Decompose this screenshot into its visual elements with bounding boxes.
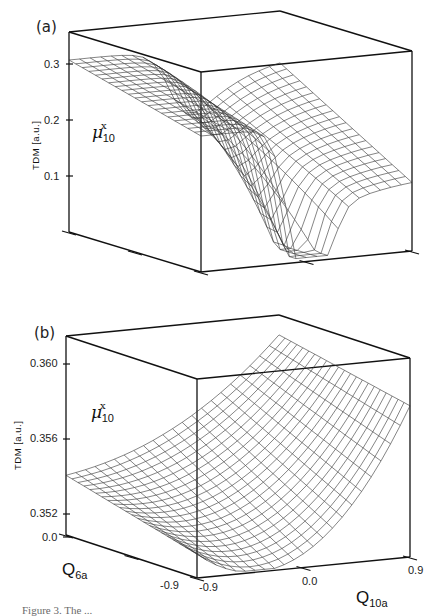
panel-b-top-edge (279, 315, 410, 358)
panel-b-tick-1: 0.356 (30, 433, 58, 444)
panel-b-tag: (b) (34, 326, 55, 341)
panel-b-surface-mesh-line (155, 383, 368, 536)
panel-a-top-edge (201, 51, 412, 72)
panel-b-surface-mesh-line (250, 366, 381, 461)
mu-superscript: x (101, 120, 107, 131)
panel-b-surface-mesh-line (185, 399, 398, 562)
panel-b-surface-mesh-line (114, 361, 327, 505)
q6a-tick-low: -0.9 (160, 580, 179, 591)
panel-a-q10-axis (201, 251, 412, 272)
mu-superscript: x (100, 400, 106, 411)
panel-b-tick-3: 0.0 (42, 532, 57, 543)
mu-subscript: 10 (102, 412, 114, 424)
panel-a-tick-0: 0.3 (44, 59, 59, 70)
panel-a-surface-mesh-line (185, 113, 317, 256)
panel-a-tag: (a) (36, 20, 57, 35)
mu-subscript: 10 (103, 132, 115, 144)
q6a-letter: Q (62, 560, 75, 579)
panel-b-surface-mesh-line (120, 364, 333, 509)
panel-a-surface-mesh-line (201, 132, 412, 259)
q10a-tick-0: -0.9 (199, 582, 218, 593)
panel-b-surface-mesh-line (269, 346, 400, 426)
panel-b-top-edge (197, 358, 410, 379)
panel-a-tick-2: 0.1 (44, 171, 59, 182)
panel-a-surface-mesh-line (161, 109, 372, 232)
panel-b-top-edge (66, 315, 279, 336)
panel-b-tick-0: 0.360 (30, 358, 58, 369)
panel-a-surface-mesh-line (155, 105, 366, 220)
panel-b-surface-mesh-line (260, 356, 391, 444)
panel-b-ylabel: TDM [a.u.] (12, 421, 23, 470)
q6a-axis-label: Q6a (62, 560, 87, 581)
panel-b-surface-mesh-line (138, 374, 351, 523)
panel-a-surface-label: μx10 (92, 122, 121, 144)
panel-b-surface-mesh-line (191, 403, 404, 568)
panel-a-surface-mesh-line (259, 71, 391, 187)
panel-a-surface-mesh-line (196, 113, 328, 256)
q10a-subscript: 10a (369, 597, 387, 609)
panel-a-surface-mesh-line (248, 76, 380, 190)
panel-a-tick-1: 0.2 (44, 115, 59, 126)
panel-a-ylabel: TDM [a.u.] (30, 121, 41, 170)
panel-b-surface-mesh-line (66, 475, 197, 554)
panel-a-surface-mesh-line (168, 113, 379, 246)
panel-b-surface-mesh-line (90, 348, 303, 490)
panel-a-surface-mesh-line (135, 94, 346, 187)
q10a-tick-2: 0.9 (408, 565, 423, 576)
q10a-tick-1: 0.0 (302, 576, 317, 587)
q10a-letter: Q (356, 588, 369, 607)
q6a-subscript: 6a (75, 569, 87, 581)
panel-a-top-edge (280, 11, 412, 51)
panel-a-q6-axis (69, 232, 201, 272)
panel-b-surface-label: μx10 (91, 402, 120, 424)
q10a-axis-label: Q10a (356, 588, 388, 609)
panel-b-top-edge (66, 336, 197, 379)
panel-a-surface-mesh-line (217, 96, 349, 206)
panel-a-top-edge (69, 11, 280, 32)
panel-a-surface-mesh-line (269, 67, 401, 185)
panel-b-surface-mesh-line (279, 335, 410, 406)
panel-b-tick-2: 0.352 (30, 508, 58, 519)
figure-caption: Figure 3. The ... (22, 604, 92, 616)
panel-a-surface-mesh-line (82, 63, 293, 123)
panel-a-top-edge (69, 32, 201, 72)
